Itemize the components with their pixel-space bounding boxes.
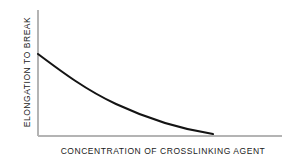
chart-figure: ELONGATION TO BREAK CONCENTRATION OF CRO… bbox=[0, 0, 297, 164]
y-axis-title: ELONGATION TO BREAK bbox=[20, 6, 34, 138]
x-axis-title: CONCENTRATION OF CROSSLINKING AGENT bbox=[38, 146, 288, 156]
data-curve-elongation-to-break bbox=[38, 54, 213, 134]
plot-area bbox=[0, 0, 297, 164]
